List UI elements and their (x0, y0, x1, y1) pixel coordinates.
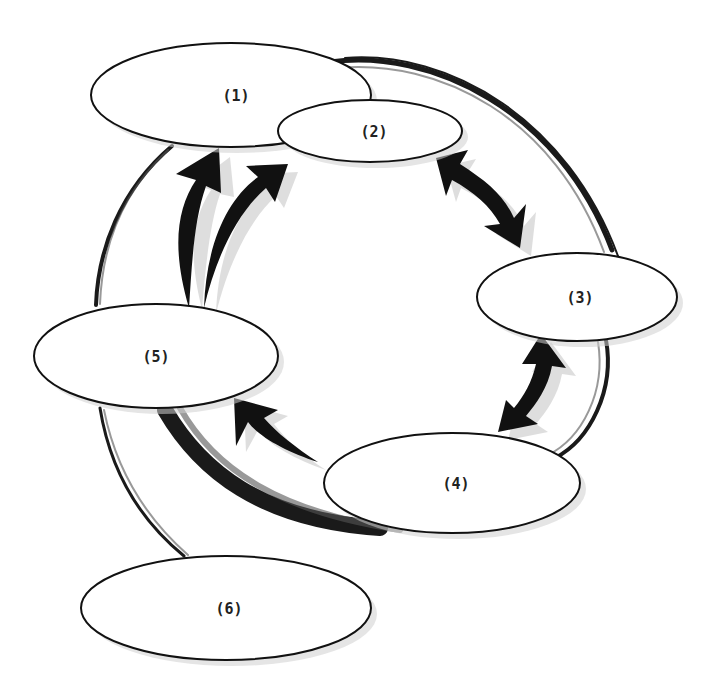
cycle-diagram: (1) (2) (3) (4) (5) (6) (0, 0, 716, 696)
node-2-label: (2) (360, 123, 387, 141)
node-5-label: (5) (142, 348, 169, 366)
node-3-label: (3) (566, 289, 593, 307)
node-4-label: (4) (442, 475, 469, 493)
arrow-4-to-5 (234, 398, 326, 470)
node-1-label: (1) (222, 87, 249, 105)
arrow-2-to-3-icon (436, 150, 526, 248)
arrow-2-to-3 (436, 150, 536, 256)
node-3: (3) (477, 253, 683, 347)
node-6: (6) (81, 556, 377, 666)
node-6-label: (6) (215, 600, 242, 618)
node-2: (2) (278, 100, 468, 168)
node-5: (5) (34, 304, 284, 414)
arrow-3-to-4 (498, 334, 576, 440)
